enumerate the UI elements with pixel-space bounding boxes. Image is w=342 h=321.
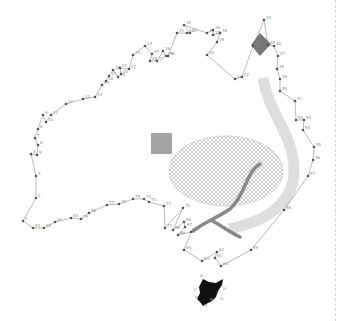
dot-33 — [189, 32, 192, 35]
gray-square-shape — [151, 133, 172, 154]
dot-13 — [82, 98, 85, 101]
dot-label: 65 — [193, 227, 199, 232]
dot-label: 76 — [121, 199, 127, 204]
tasmania-label: C — [194, 287, 197, 292]
dot-label: 77 — [109, 200, 115, 205]
dot-8 — [37, 128, 40, 131]
dot-20 — [120, 73, 123, 76]
dot-label: 21 — [122, 63, 128, 68]
dot-label: 24 — [147, 41, 153, 46]
dot-70 — [182, 207, 185, 210]
dot-35 — [206, 32, 209, 35]
dot-52 — [295, 119, 298, 122]
dot-label: 70 — [185, 203, 191, 208]
dot-label: 5 — [39, 150, 42, 155]
dot-label: 74 — [146, 194, 152, 199]
dot-75 — [132, 198, 135, 201]
dot-26 — [149, 60, 152, 63]
dot-label: 72 — [166, 201, 172, 206]
dot-label: 50 — [282, 86, 288, 91]
dot-41 — [234, 78, 237, 81]
dot-43 — [252, 45, 255, 48]
dot-label: 9 — [45, 110, 48, 115]
dot-55 — [313, 146, 316, 149]
dot-1 — [22, 220, 25, 223]
dot-42 — [241, 76, 244, 79]
dot-label: 78 — [91, 208, 97, 213]
dot-24 — [144, 45, 147, 48]
dot-81 — [54, 221, 57, 224]
dot-21 — [119, 67, 122, 70]
dot-30 — [167, 55, 170, 58]
tasmania-label: D — [195, 295, 198, 300]
dot-label: 13 — [85, 94, 91, 99]
dot-4 — [30, 153, 33, 156]
dot-62 — [216, 251, 219, 254]
dot-71 — [164, 227, 167, 230]
dot-28 — [162, 50, 165, 53]
tasmania-label: A — [200, 273, 203, 278]
dot-34 — [183, 24, 186, 27]
dot-40 — [206, 54, 209, 57]
dot-77 — [106, 204, 109, 207]
dot-label: 2 — [38, 193, 41, 198]
dot-72 — [163, 205, 166, 208]
dot-label: 39 — [219, 37, 225, 42]
dot-label: 48 — [279, 64, 285, 69]
dot-49 — [279, 78, 282, 81]
dot-45 — [267, 44, 270, 47]
australia-dot-puzzle: 1234567891011121314151617181920212223242… — [0, 0, 342, 321]
dot-label: 12 — [68, 99, 74, 104]
tasmania-label: G — [220, 296, 223, 301]
dot-label: 58 — [286, 205, 292, 210]
dot-83 — [32, 227, 35, 230]
dot-64 — [183, 249, 186, 252]
dot-9 — [42, 114, 45, 117]
dot-label: 38 — [222, 28, 228, 33]
dot-59 — [250, 249, 253, 252]
dot-14 — [94, 96, 97, 99]
dot-label: 10 — [48, 117, 54, 122]
dot-label: 42 — [244, 72, 250, 77]
dot-12 — [65, 103, 68, 106]
dot-36 — [212, 29, 215, 32]
dot-label: 61 — [217, 253, 223, 258]
dot-82 — [43, 227, 46, 230]
dot-16 — [105, 80, 108, 83]
dot-label: 73 — [151, 197, 157, 202]
dot-57 — [307, 175, 310, 178]
dot-label: 64 — [186, 245, 192, 250]
dot-80 — [70, 217, 73, 220]
dot-65 — [190, 231, 193, 234]
dot-label: 7 — [37, 133, 40, 138]
dot-7 — [34, 137, 37, 140]
dot-3 — [35, 175, 38, 178]
dot-50 — [279, 90, 282, 93]
dot-label: 8 — [40, 124, 43, 129]
hatched-ellipse-shape — [169, 136, 283, 206]
dot-label: 67 — [187, 222, 193, 227]
dot-69 — [172, 229, 175, 232]
dot-label: 55 — [316, 142, 322, 147]
dot-label: 44 — [266, 15, 272, 20]
dot-22 — [128, 68, 131, 71]
dot-38 — [219, 32, 222, 35]
dot-label: 81 — [57, 217, 63, 222]
dot-label: 30 — [170, 51, 176, 56]
dot-label: 62 — [219, 247, 225, 252]
dot-label: 57 — [310, 171, 316, 176]
dot-label: 82 — [46, 223, 52, 228]
dot-label: 4 — [33, 149, 36, 154]
dot-58 — [283, 209, 286, 212]
dot-label: 27 — [159, 56, 165, 61]
dot-label: 25 — [154, 49, 160, 54]
dot-66 — [177, 234, 180, 237]
dot-67 — [184, 226, 187, 229]
dot-label: 80 — [73, 213, 79, 218]
dot-60 — [220, 265, 223, 268]
dot-51 — [294, 100, 297, 103]
dot-label: 83 — [35, 223, 41, 228]
dot-18 — [112, 69, 115, 72]
dot-label: 22 — [131, 64, 137, 69]
dot-48 — [276, 68, 279, 71]
